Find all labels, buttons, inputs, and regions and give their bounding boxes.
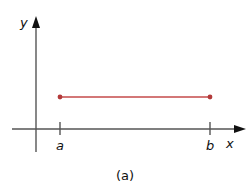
y-axis-label: y bbox=[19, 15, 28, 30]
segment-endpoint-a bbox=[58, 95, 63, 100]
figure-caption: (a) bbox=[116, 168, 134, 183]
x-axis-arrow-icon bbox=[234, 125, 246, 133]
figure-canvas: y x a b (a) bbox=[0, 0, 250, 196]
segment-endpoint-b bbox=[208, 95, 213, 100]
y-axis-arrow-icon bbox=[32, 16, 40, 28]
tick-label-b: b bbox=[206, 138, 214, 153]
tick-label-a: a bbox=[56, 138, 64, 153]
x-axis-label: x bbox=[225, 136, 234, 151]
